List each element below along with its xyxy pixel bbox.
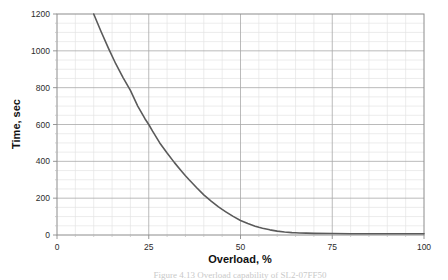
x-tick-label: 0 — [55, 242, 60, 252]
y-tick-label: 1000 — [31, 46, 50, 56]
x-tick-label: 50 — [236, 242, 246, 252]
line-chart-svg: 020040060080010001200 0255075100 Time, s… — [0, 0, 448, 280]
y-tick-label: 200 — [36, 193, 50, 203]
y-tick-label: 400 — [36, 156, 50, 166]
y-tick-label: 1200 — [31, 9, 50, 19]
x-tick-label: 25 — [144, 242, 154, 252]
chart-figure: 020040060080010001200 0255075100 Time, s… — [0, 0, 448, 280]
x-tick-label: 100 — [417, 242, 431, 252]
y-axis-title: Time, sec — [10, 99, 22, 149]
y-tick-label: 0 — [45, 230, 50, 240]
x-axis-title: Overload, % — [208, 253, 272, 265]
y-tick-label: 800 — [36, 83, 50, 93]
x-tick-label: 75 — [328, 242, 338, 252]
figure-caption: Figure 4.13 Overload capability of SL2-0… — [154, 270, 327, 280]
y-tick-label: 600 — [36, 120, 50, 130]
